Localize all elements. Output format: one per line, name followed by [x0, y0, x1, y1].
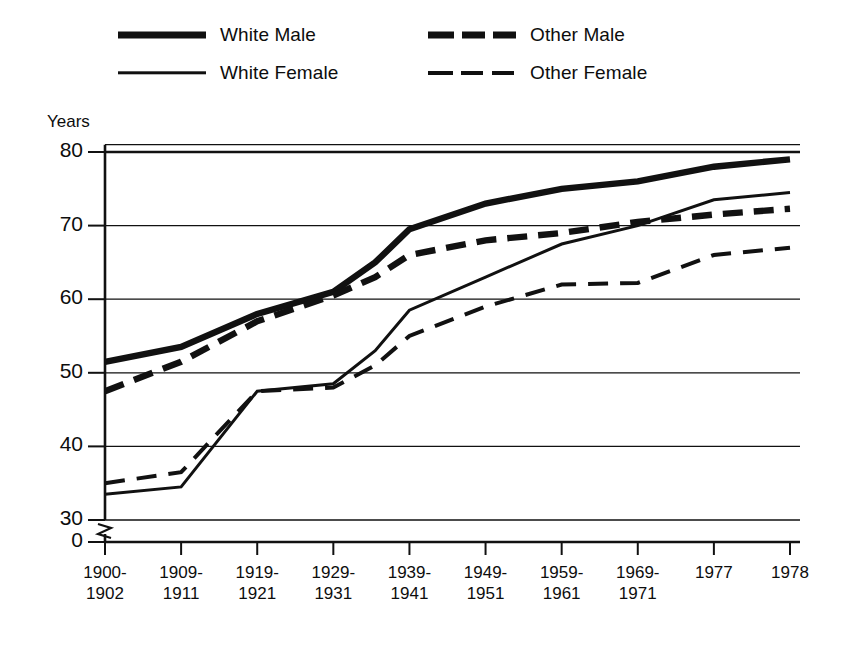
y-tick-label: 40: [39, 432, 83, 456]
x-tick-label: 1969-1971: [595, 562, 681, 604]
y-tick-label: 80: [39, 138, 83, 162]
chart-root: White Male White Female Other Male Other…: [0, 0, 847, 646]
y-tick-label: 0: [39, 528, 83, 552]
axis-lines: [88, 145, 790, 555]
y-tick-label: 70: [39, 212, 83, 236]
x-tick-label: 1959-1961: [519, 562, 605, 604]
y-tick-label: 30: [39, 506, 83, 530]
x-tick-label: 1929-1931: [290, 562, 376, 604]
x-tick-label: 1900-1902: [62, 562, 148, 604]
series-line-white-male: [105, 159, 790, 361]
series-line-other-male: [105, 209, 790, 392]
y-tick-label: 60: [39, 285, 83, 309]
x-tick-label: 1919-1921: [214, 562, 300, 604]
x-tick-label: 1909-1911: [138, 562, 224, 604]
chart-plot-area: [0, 0, 847, 646]
x-tick-label: 1939-1941: [366, 562, 452, 604]
y-tick-label: 50: [39, 359, 83, 383]
x-tick-label: 1978: [747, 562, 833, 583]
data-series-group: [105, 159, 790, 494]
x-tick-label: 1977: [671, 562, 757, 583]
x-tick-label: 1949-1951: [443, 562, 529, 604]
gridlines: [105, 145, 800, 542]
series-line-other-female: [105, 248, 790, 484]
series-line-white-female: [105, 193, 790, 495]
